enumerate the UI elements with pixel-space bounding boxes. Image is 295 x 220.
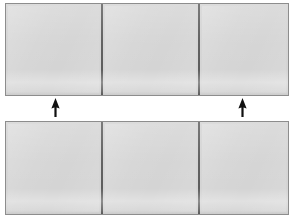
panel-sheen [105,124,196,212]
panel-top-2[interactable] [101,4,198,95]
row-gap [0,96,295,121]
panel-sheen [105,6,196,93]
arrow-up-icon-right[interactable] [237,98,248,117]
arrow-up-icon-left[interactable] [50,98,61,117]
panel-bottom-3[interactable] [198,122,288,214]
panel-top-3[interactable] [198,4,288,95]
panel-row-bottom [5,121,289,215]
panel-top-1[interactable] [6,4,101,95]
panel-sheen [8,6,99,93]
arrow-up-icon [50,98,61,117]
figure-canvas [0,0,295,220]
arrow-up-icon [237,98,248,117]
panel-sheen [202,6,286,93]
panel-bottom-2[interactable] [101,122,198,214]
panel-bottom-1[interactable] [6,122,101,214]
panel-sheen [202,124,286,212]
panel-sheen [8,124,99,212]
panel-row-top [5,3,289,96]
